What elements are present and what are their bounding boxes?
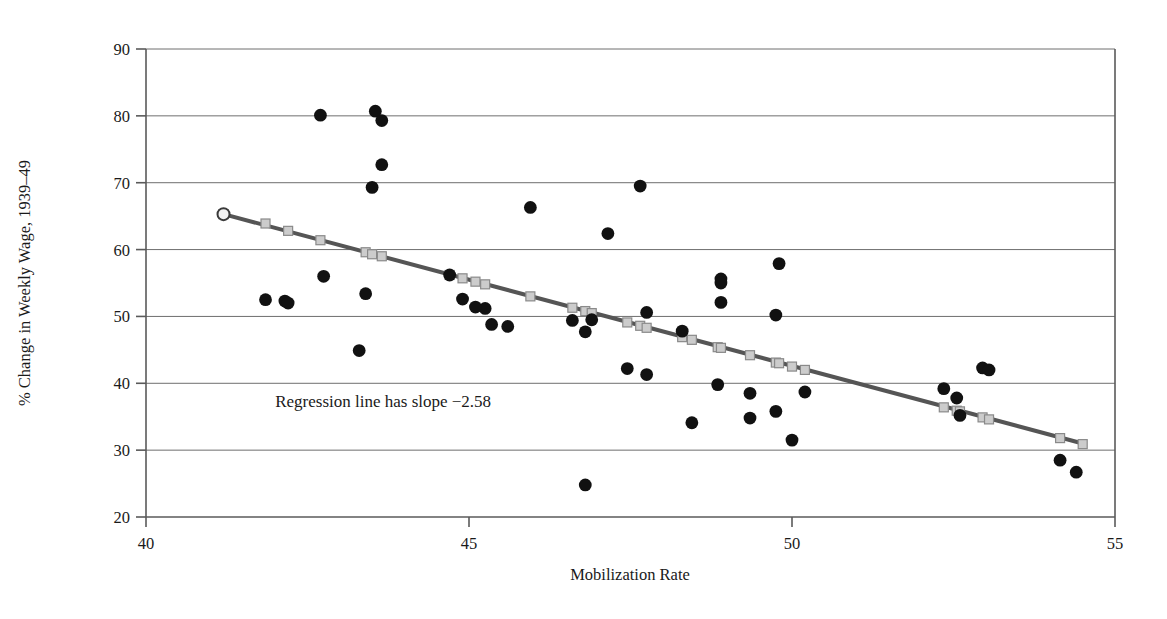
regression-marker xyxy=(775,359,784,368)
regression-marker xyxy=(746,351,755,360)
scatter-point xyxy=(711,378,724,391)
scatter-point xyxy=(621,362,634,375)
scatter-points-group xyxy=(259,105,1083,492)
x-tick-label-45: 45 xyxy=(461,534,478,553)
regression-marker xyxy=(284,226,293,235)
scatter-point xyxy=(640,306,653,319)
scatter-point xyxy=(375,158,388,171)
scatter-point xyxy=(786,434,799,447)
scatter-point xyxy=(366,181,379,194)
scatter-point xyxy=(524,201,537,214)
regression-marker xyxy=(623,318,632,327)
scatter-point xyxy=(359,287,372,300)
regression-marker xyxy=(687,335,696,344)
regression-slope-annotation: Regression line has slope −2.58 xyxy=(275,392,491,411)
scatter-point xyxy=(469,301,482,314)
y-tick-label-20: 20 xyxy=(114,508,131,527)
scatter-point xyxy=(501,320,514,333)
scatter-point xyxy=(375,114,388,127)
y-tick-label-80: 80 xyxy=(114,107,131,126)
scatter-point xyxy=(769,405,782,418)
x-tick-label-55: 55 xyxy=(1107,534,1124,553)
regression-marker xyxy=(481,280,490,289)
regression-marker xyxy=(471,277,480,286)
regression-marker xyxy=(316,236,325,245)
regression-marker xyxy=(985,415,994,424)
scatter-point xyxy=(314,109,327,122)
scatter-point xyxy=(950,392,963,405)
x-tick-label-50: 50 xyxy=(784,534,801,553)
scatter-point xyxy=(601,227,614,240)
scatter-point xyxy=(1054,454,1067,467)
chart-canvas: 2030405060708090 40455055 Regression lin… xyxy=(0,0,1167,619)
regression-marker xyxy=(368,250,377,259)
scatter-point xyxy=(1070,466,1083,479)
scatter-point xyxy=(676,325,689,338)
regression-marker xyxy=(939,403,948,412)
y-tick-label-90: 90 xyxy=(114,40,131,59)
gridlines xyxy=(146,49,1115,450)
x-axis-ticks: 40455055 xyxy=(138,517,1124,553)
scatter-point xyxy=(585,313,598,326)
regression-marker xyxy=(642,323,651,332)
scatter-point xyxy=(744,387,757,400)
scatter-point xyxy=(715,296,728,309)
scatter-point xyxy=(456,293,469,306)
scatter-point xyxy=(579,325,592,338)
y-tick-label-60: 60 xyxy=(114,241,131,260)
scatter-point xyxy=(634,180,647,193)
regression-marker xyxy=(377,252,386,261)
scatter-point xyxy=(937,382,950,395)
scatter-point xyxy=(983,364,996,377)
y-tick-label-70: 70 xyxy=(114,174,131,193)
scatter-point xyxy=(317,270,330,283)
scatter-point xyxy=(485,318,498,331)
regression-marker xyxy=(458,274,467,283)
regression-marker xyxy=(800,365,809,374)
y-tick-label-40: 40 xyxy=(114,374,131,393)
y-axis-ticks: 2030405060708090 xyxy=(114,40,147,527)
x-tick-label-40: 40 xyxy=(138,534,155,553)
regression-marker xyxy=(1056,434,1065,443)
y-tick-label-30: 30 xyxy=(114,441,131,460)
scatter-point xyxy=(579,479,592,492)
scatter-plot-figure: 2030405060708090 40455055 Regression lin… xyxy=(0,0,1167,619)
regression-marker xyxy=(526,292,535,301)
y-tick-label-50: 50 xyxy=(114,307,131,326)
scatter-point xyxy=(799,386,812,399)
scatter-point xyxy=(640,368,653,381)
scatter-point xyxy=(744,412,757,425)
regression-start-marker xyxy=(218,208,230,220)
axes xyxy=(146,49,1115,517)
scatter-point xyxy=(954,409,967,422)
scatter-point xyxy=(443,269,456,282)
x-axis-label: Mobilization Rate xyxy=(570,565,690,584)
y-axis-label: % Change in Weekly Wage, 1939–49 xyxy=(15,160,34,406)
regression-marker xyxy=(568,303,577,312)
scatter-point xyxy=(685,416,698,429)
scatter-point xyxy=(566,314,579,327)
scatter-point xyxy=(769,309,782,322)
scatter-point xyxy=(353,344,366,357)
scatter-point xyxy=(259,293,272,306)
annotation-group: Regression line has slope −2.58 xyxy=(275,392,491,411)
regression-marker xyxy=(1078,440,1087,449)
scatter-point xyxy=(715,277,728,290)
regression-marker xyxy=(716,343,725,352)
regression-marker xyxy=(788,362,797,371)
scatter-point xyxy=(773,257,786,270)
scatter-point xyxy=(282,297,295,310)
regression-marker xyxy=(261,219,270,228)
